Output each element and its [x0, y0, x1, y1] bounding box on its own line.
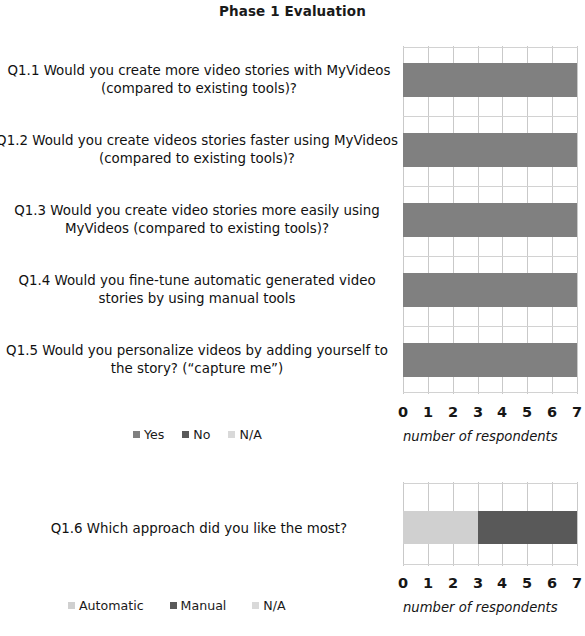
question-label: Q1.5 Would you personalize videos by add… [0, 342, 398, 377]
bar-row [403, 133, 577, 167]
question-label: Q1.2 Would you create videos stories fas… [0, 132, 398, 167]
legend-item-yes: Yes [133, 427, 164, 442]
bar-row [403, 273, 577, 307]
chart2-plot-area [403, 482, 578, 566]
bar-segment-yes [403, 273, 577, 307]
bar-row [403, 63, 577, 97]
bar-row [403, 511, 577, 544]
phase1-approach-chart: Q1.6 Which approach did you like the mos… [0, 482, 585, 636]
x-tick-label: 5 [515, 575, 539, 591]
legend-swatch-manual [170, 602, 177, 609]
gridline-vertical [577, 482, 578, 566]
bar-segment-yes [403, 203, 577, 237]
chart1-legend: YesNoN/A [133, 427, 280, 442]
phase1-questions-chart: Q1.1 Would you create more video stories… [0, 46, 585, 394]
chart1-plot-area [403, 46, 578, 394]
gridline-horizontal [403, 392, 578, 393]
question-label: Q1.6 Which approach did you like the mos… [0, 520, 398, 538]
bar-row [403, 203, 577, 237]
legend-label: Yes [144, 427, 164, 442]
legend-item-no: No [182, 427, 210, 442]
chart1-category-labels: Q1.1 Would you create more video stories… [0, 46, 398, 394]
bar-row [403, 343, 577, 377]
chart1-x-axis-label: number of respondents [403, 429, 558, 444]
legend-swatch-yes [133, 431, 140, 438]
x-tick-label: 4 [490, 575, 514, 591]
x-tick-label: 2 [441, 575, 465, 591]
chart2-x-axis-ticks: 01234567 [403, 575, 578, 595]
x-tick-label: 1 [416, 575, 440, 591]
legend-label: N/A [263, 598, 285, 613]
legend-label: Automatic [79, 598, 144, 613]
bar-segment-yes [403, 63, 577, 97]
chart2-x-axis-label: number of respondents [403, 600, 558, 615]
question-label: Q1.1 Would you create more video stories… [0, 62, 398, 97]
gridline-horizontal [403, 483, 578, 484]
x-tick-label: 7 [565, 575, 585, 591]
legend-label: Manual [181, 598, 227, 613]
gridline-vertical [577, 46, 578, 394]
bar-segment-yes [403, 133, 577, 167]
gridline-horizontal [403, 186, 578, 187]
x-tick-label: 5 [515, 404, 539, 420]
chart2-legend: AutomaticManualN/A [68, 598, 312, 613]
legend-item-na: N/A [228, 427, 261, 442]
legend-swatch-na [252, 602, 259, 609]
bar-segment-yes [403, 343, 577, 377]
bar-segment-automatic [403, 511, 478, 544]
x-tick-label: 0 [391, 404, 415, 420]
question-label: Q1.4 Would you fine-tune automatic gener… [0, 272, 398, 307]
x-tick-label: 6 [540, 575, 564, 591]
chart2-category-labels: Q1.6 Which approach did you like the mos… [0, 482, 398, 582]
gridline-horizontal [403, 47, 578, 48]
gridline-horizontal [403, 564, 578, 565]
chart1-x-axis-ticks: 01234567 [403, 404, 578, 424]
x-tick-label: 3 [466, 575, 490, 591]
x-tick-label: 2 [441, 404, 465, 420]
legend-swatch-automatic [68, 602, 75, 609]
question-label: Q1.3 Would you create video stories more… [0, 202, 398, 237]
x-tick-label: 1 [416, 404, 440, 420]
legend-item-na: N/A [252, 598, 285, 613]
legend-swatch-na [228, 431, 235, 438]
gridline-horizontal [403, 116, 578, 117]
gridline-horizontal [403, 256, 578, 257]
bar-segment-manual [478, 511, 577, 544]
x-tick-label: 0 [391, 575, 415, 591]
legend-item-manual: Manual [170, 598, 227, 613]
legend-label: N/A [239, 427, 261, 442]
legend-swatch-no [182, 431, 189, 438]
legend-label: No [193, 427, 210, 442]
x-tick-label: 7 [565, 404, 585, 420]
x-tick-label: 6 [540, 404, 564, 420]
x-tick-label: 4 [490, 404, 514, 420]
figure-title: Phase 1 Evaluation [0, 3, 585, 19]
legend-item-automatic: Automatic [68, 598, 144, 613]
gridline-horizontal [403, 326, 578, 327]
x-tick-label: 3 [466, 404, 490, 420]
